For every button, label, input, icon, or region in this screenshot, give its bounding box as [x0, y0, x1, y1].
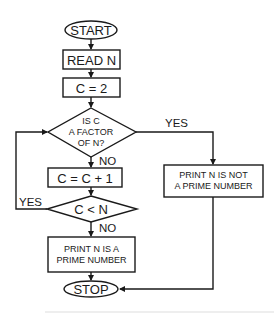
decision2-label: C < N — [66, 203, 116, 216]
decision2-yes-label: YES — [19, 197, 42, 209]
init-label: C = 2 — [63, 82, 120, 95]
flowchart-canvas — [0, 0, 274, 313]
decision1-no-label: NO — [99, 156, 116, 168]
decision1-yes-label: YES — [165, 118, 188, 130]
stop-label: STOP — [64, 283, 118, 296]
decision2-no-label: NO — [99, 223, 116, 235]
print-not-prime-label: PRINT N IS NOT A PRIME NUMBER — [164, 170, 263, 192]
decision1-label: IS C A FACTOR OF N? — [61, 116, 121, 149]
increment-label: C = C + 1 — [48, 172, 122, 185]
start-label: START — [65, 24, 117, 37]
print-prime-label: PRINT N IS A PRIME NUMBER — [48, 244, 135, 266]
read-label: READ N — [63, 54, 120, 67]
